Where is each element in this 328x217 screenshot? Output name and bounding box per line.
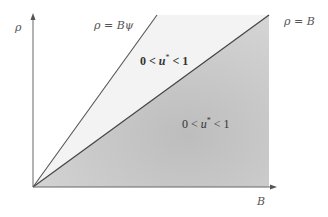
region-label-lower: 0 < u* < 1 — [182, 116, 230, 131]
x-axis-label: B — [256, 195, 265, 208]
line-label-rho-eq-b: ρ = B — [283, 15, 315, 28]
line-label-rho-eq-b-psi: ρ = Bψ — [93, 19, 134, 32]
phase-diagram: ρ ρ = Bψ ρ = B B 0 < u* < 1 0 < u* < 1 — [0, 0, 328, 217]
region-label-upper: 0 < u* < 1 — [140, 53, 188, 68]
x-axis-arrow-icon — [270, 185, 277, 190]
y-axis-label: ρ — [14, 21, 22, 34]
y-axis-arrow-icon — [31, 13, 36, 20]
